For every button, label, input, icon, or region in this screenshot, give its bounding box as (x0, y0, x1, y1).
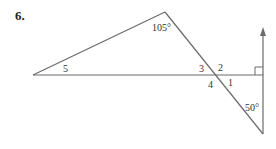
transversal-apex-to-bottom (165, 12, 263, 134)
label-angle-apex: 105° (152, 22, 171, 33)
label-angle-3: 3 (199, 63, 204, 74)
arrowhead-icon (260, 27, 266, 36)
right-angle-marker (255, 67, 263, 75)
label-angle-4: 4 (208, 79, 213, 90)
label-angle-5: 5 (63, 63, 68, 74)
geometry-figure: 105° 5 3 2 4 1 50° (0, 0, 276, 149)
label-angle-2: 2 (218, 62, 223, 73)
segment-left-to-apex (33, 12, 165, 75)
label-angle-bottom: 50° (245, 102, 259, 113)
label-angle-1: 1 (228, 77, 233, 88)
